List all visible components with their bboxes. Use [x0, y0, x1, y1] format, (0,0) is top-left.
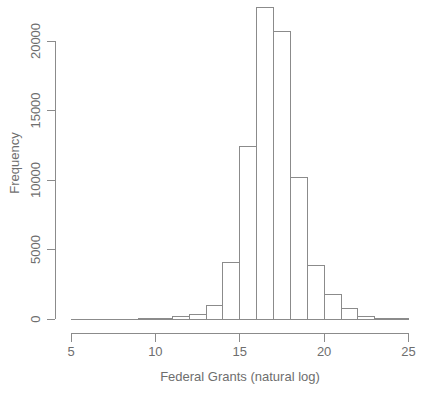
- x-tick-label: 15: [233, 344, 247, 359]
- histogram-figure: 05000100001500020000510152025 Federal Gr…: [0, 0, 429, 396]
- histogram-bar: [206, 305, 223, 319]
- y-tick-label: 20000: [28, 23, 43, 59]
- histogram-bar: [274, 31, 291, 319]
- histogram-canvas: 05000100001500020000510152025: [0, 0, 429, 396]
- histogram-bar: [223, 262, 240, 319]
- histogram-bar: [358, 317, 375, 319]
- histogram-bar: [290, 177, 307, 319]
- histogram-bar: [324, 295, 341, 319]
- histogram-bar: [172, 317, 189, 319]
- y-tick-label: 0: [28, 315, 43, 322]
- x-axis-label: Federal Grants (natural log): [71, 369, 409, 384]
- y-tick-label: 5000: [28, 235, 43, 264]
- histogram-bar: [240, 147, 257, 319]
- x-tick-label: 20: [317, 344, 331, 359]
- histogram-bar: [341, 309, 358, 319]
- histogram-bar: [257, 8, 274, 319]
- histogram-bar: [307, 265, 324, 319]
- y-axis-label: Frequency: [7, 132, 22, 193]
- y-tick-label: 10000: [28, 162, 43, 198]
- histogram-bar: [189, 315, 206, 319]
- histogram-bar: [375, 318, 392, 319]
- x-tick-label: 25: [401, 344, 415, 359]
- y-tick-label: 15000: [28, 92, 43, 128]
- histogram-bar: [155, 318, 172, 319]
- x-tick-label: 5: [67, 344, 74, 359]
- x-tick-label: 10: [148, 344, 162, 359]
